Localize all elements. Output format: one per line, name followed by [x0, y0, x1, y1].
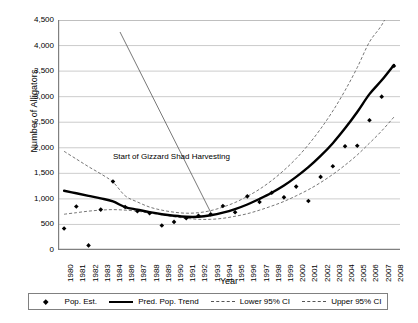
chart-legend: Pop. Est.Pred. Pop. TrendLower 95% CIUpp… [28, 293, 388, 310]
y-tick-label: 1,000 [0, 195, 54, 203]
y-tick-label: 0 [0, 246, 54, 254]
plot-svg [58, 20, 400, 250]
data-point-marker [86, 243, 91, 248]
data-point-marker [245, 194, 250, 199]
legend-item: Pop. Est. [35, 297, 97, 306]
legend-label: Upper 95% CI [331, 297, 381, 306]
y-tick-label: 500 [0, 220, 54, 228]
data-point-marker [331, 164, 336, 169]
data-point-marker [74, 204, 79, 209]
data-point-marker [355, 143, 360, 148]
y-tick-label: 4,000 [0, 42, 54, 50]
legend-key-marker-icon [35, 297, 61, 306]
data-point-marker [160, 223, 165, 228]
data-point-marker [294, 184, 299, 189]
data-point-marker [62, 226, 67, 231]
y-tick-label: 2,500 [0, 118, 54, 126]
data-point-marker [111, 179, 116, 184]
data-point-marker [367, 118, 372, 123]
legend-item: Upper 95% CI [301, 297, 381, 306]
y-tick-label: 2,000 [0, 144, 54, 152]
legend-label: Pop. Est. [65, 297, 97, 306]
y-axis-tick-labels: 4,5004,0003,5003,0002,5002,0001,5001,000… [0, 0, 54, 323]
y-tick-label: 3,500 [0, 67, 54, 75]
legend-item: Lower 95% CI [210, 297, 290, 306]
legend-item: Pred. Pop. Trend [108, 297, 198, 306]
legend-key-dash-icon [301, 297, 327, 306]
series-line-ci [64, 117, 394, 219]
x-axis-title: Year [58, 276, 400, 286]
series-group [62, 20, 396, 248]
annotation-gizzard-shad: Start of Gizzard Shad Harvesting [113, 152, 230, 161]
plot-area [58, 20, 400, 250]
data-point-marker [172, 220, 177, 225]
data-point-marker [318, 175, 323, 180]
y-tick-label: 1,500 [0, 169, 54, 177]
y-tick-label: 4,500 [0, 16, 54, 24]
series-line-trend [64, 65, 394, 217]
alligator-population-chart: Number of Alligators 4,5004,0003,5003,00… [0, 0, 418, 323]
data-point-marker [306, 199, 311, 204]
legend-label: Pred. Pop. Trend [138, 297, 198, 306]
legend-label: Lower 95% CI [240, 297, 290, 306]
data-point-marker [379, 94, 384, 99]
series-line-ci [64, 20, 394, 213]
legend-key-dash-icon [210, 297, 236, 306]
data-point-marker [98, 207, 103, 212]
y-tick-label: 3,000 [0, 93, 54, 101]
legend-key-solid-icon [108, 297, 134, 306]
